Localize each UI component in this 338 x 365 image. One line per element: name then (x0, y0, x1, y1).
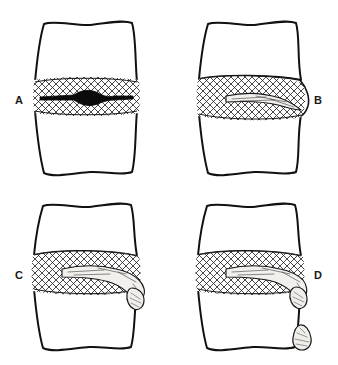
disc-herniation-figure: A B (0, 0, 338, 365)
vertebra-superior-b (199, 21, 301, 80)
panel-label-b: B (314, 94, 322, 106)
vertebra-superior-d (198, 203, 301, 256)
vertebra-inferior-d (198, 289, 301, 350)
vertebra-inferior-a (35, 111, 137, 175)
figure-root: A B (0, 0, 338, 365)
vertebra-superior-c (34, 203, 137, 256)
vertebra-superior-a (35, 21, 137, 82)
panel-label-d: D (314, 269, 322, 281)
vertebra-inferior-b (199, 114, 301, 175)
panel-label-a: A (15, 94, 23, 106)
vertebra-inferior-c (34, 289, 137, 350)
panel-label-c: C (15, 269, 23, 281)
